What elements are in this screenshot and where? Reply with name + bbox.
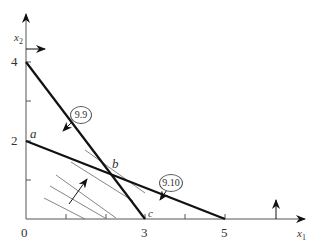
x-tick-3: 3: [141, 226, 148, 239]
lp-diagram: [0, 0, 330, 246]
constraint-line-9-9: [26, 62, 145, 219]
x-axis: [26, 214, 305, 219]
objective-arrow-icon: [69, 179, 87, 204]
constraint-9-9-arrow-icon: [63, 122, 72, 131]
x-axis-label: x1: [297, 228, 306, 242]
point-b-label: b: [112, 157, 119, 170]
constraint-9-9-badge: 9.9: [70, 106, 92, 124]
y-axis-label: x2: [14, 32, 23, 46]
point-a-label: a: [30, 127, 37, 140]
objective-contours: [44, 150, 145, 219]
x-axis-label-sub: 1: [302, 233, 306, 242]
constraint-line-9-10: [26, 141, 225, 219]
y-tick-4: 4: [11, 55, 18, 68]
y-tick-2: 2: [11, 134, 18, 147]
origin-label: 0: [21, 226, 28, 239]
y-axis: [26, 14, 31, 219]
x-tick-5: 5: [221, 226, 228, 239]
constraint-9-10-badge: 9.10: [159, 174, 183, 192]
y-axis-label-sub: 2: [19, 37, 23, 46]
point-c-label: c: [148, 208, 153, 219]
